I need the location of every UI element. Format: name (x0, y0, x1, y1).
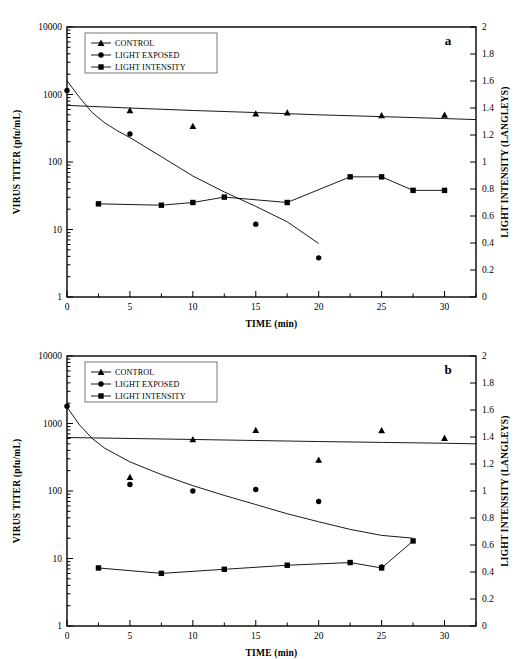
series-line (98, 541, 413, 573)
data-point-triangle (127, 474, 134, 480)
y-left-tick-label: 10000 (38, 22, 62, 32)
series-control (127, 107, 448, 129)
plot-b-svg: 051015202530TIME (min)110100100010000VIR… (0, 329, 527, 659)
x-tick-label: 5 (128, 302, 133, 312)
y-right-tick-label: 0.8 (482, 184, 494, 194)
data-point-circle (316, 499, 321, 504)
data-point-circle (190, 488, 195, 493)
legend-label: LIGHT INTENSITY (115, 63, 186, 72)
y-left-tick-label: 1000 (43, 419, 62, 429)
series-control (127, 427, 448, 480)
y-right-tick-label: 1 (482, 157, 487, 167)
legend: CONTROLLIGHT EXPOSEDLIGHT INTENSITY (85, 33, 217, 73)
data-point-square (98, 64, 103, 69)
y-right-tick-label: 1.6 (482, 76, 494, 86)
y-right-tick-label: 0.8 (482, 513, 494, 523)
data-point-square (96, 201, 101, 206)
data-point-circle (64, 88, 69, 93)
data-point-circle (98, 52, 103, 57)
y-right-tick-label: 1.8 (482, 378, 494, 388)
data-point-square (442, 188, 447, 193)
y-right-tick-label: 1.2 (482, 130, 494, 140)
x-tick-label: 20 (314, 302, 324, 312)
x-tick-label: 15 (251, 631, 261, 641)
x-tick-label: 0 (65, 631, 70, 641)
chart-panel-a: 051015202530TIME (min)110100100010000VIR… (0, 0, 527, 330)
data-point-square (347, 560, 352, 565)
data-point-triangle (284, 109, 291, 115)
legend-label: LIGHT INTENSITY (115, 392, 186, 401)
y-axis-left-title: VIRUS TITER (pfu/mL) (12, 439, 23, 544)
legend-label: LIGHT EXPOSED (115, 51, 180, 60)
y-left-tick-label: 10 (53, 554, 63, 564)
series-light-exposed (64, 404, 384, 570)
legend: CONTROLLIGHT EXPOSEDLIGHT INTENSITY (85, 362, 217, 402)
panel-letter: b (444, 362, 451, 377)
y-right-tick-label: 1.4 (482, 432, 494, 442)
x-axis-ticks: 051015202530 (65, 291, 476, 312)
x-tick-label: 20 (314, 631, 324, 641)
legend-label: CONTROL (115, 368, 154, 377)
series-control-trend-line (67, 438, 476, 444)
x-tick-label: 25 (377, 631, 387, 641)
y-right-tick-label: 0.4 (482, 238, 494, 248)
y-left-tick-label: 10000 (38, 351, 62, 361)
data-point-circle (98, 381, 103, 386)
y-right-tick-label: 1.6 (482, 405, 494, 415)
y-right-tick-label: 0.2 (482, 265, 494, 275)
data-point-square (285, 563, 290, 568)
data-point-circle (253, 487, 258, 492)
plot-a-svg: 051015202530TIME (min)110100100010000VIR… (0, 0, 527, 330)
data-point-square (285, 200, 290, 205)
legend-label: LIGHT EXPOSED (115, 380, 180, 389)
y-left-tick-label: 1000 (43, 90, 62, 100)
x-axis-ticks: 051015202530 (65, 620, 476, 641)
y-right-tick-label: 2 (482, 22, 487, 32)
y-right-tick-label: 0.6 (482, 540, 494, 550)
data-point-triangle (252, 110, 259, 116)
x-tick-label: 30 (440, 631, 450, 641)
data-point-square (222, 194, 227, 199)
y-axis-right-ticks: 00.20.40.60.811.21.41.61.82 (470, 22, 494, 302)
y-right-tick-label: 1.2 (482, 459, 494, 469)
chart-panel-b: 051015202530TIME (min)110100100010000VIR… (0, 329, 527, 659)
y-right-tick-label: 0 (482, 292, 487, 302)
x-tick-label: 10 (188, 302, 198, 312)
data-point-square (410, 538, 415, 543)
data-point-square (159, 203, 164, 208)
series-line (98, 177, 444, 205)
y-axis-left-ticks: 110100100010000 (38, 351, 73, 631)
data-point-triangle (441, 435, 448, 441)
y-axis-right-title: LIGHT INTENSITY (LANGLEYS) (500, 415, 511, 566)
x-tick-label: 30 (440, 302, 450, 312)
y-left-tick-label: 100 (48, 157, 63, 167)
x-tick-label: 15 (251, 302, 261, 312)
y-left-tick-label: 1 (57, 621, 62, 631)
data-point-triangle (441, 111, 448, 117)
y-right-tick-label: 2 (482, 351, 487, 361)
y-axis-left-title: VIRUS TITER (pfu/mL) (12, 110, 23, 215)
y-right-tick-label: 1.4 (482, 103, 494, 113)
series-line (67, 407, 413, 538)
data-point-square (222, 567, 227, 572)
data-point-square (379, 174, 384, 179)
y-axis-left-ticks: 110100100010000 (38, 22, 73, 302)
y-right-tick-label: 0.4 (482, 567, 494, 577)
y-axis-right-ticks: 00.20.40.60.811.21.41.61.82 (470, 351, 494, 631)
data-point-square (159, 571, 164, 576)
y-left-tick-label: 1 (57, 292, 62, 302)
series-line (67, 438, 476, 444)
data-point-circle (253, 221, 258, 226)
data-point-square (98, 393, 103, 398)
data-point-triangle (378, 427, 385, 433)
series-light-intensity (96, 174, 447, 208)
x-tick-label: 5 (128, 631, 133, 641)
y-right-tick-label: 0 (482, 621, 487, 631)
y-left-tick-label: 10 (53, 225, 63, 235)
data-point-triangle (315, 456, 322, 462)
y-right-tick-label: 1 (482, 486, 487, 496)
y-left-tick-label: 100 (48, 486, 63, 496)
y-right-tick-label: 0.2 (482, 594, 494, 604)
data-point-circle (127, 131, 132, 136)
y-axis-right-title: LIGHT INTENSITY (LANGLEYS) (500, 86, 511, 237)
